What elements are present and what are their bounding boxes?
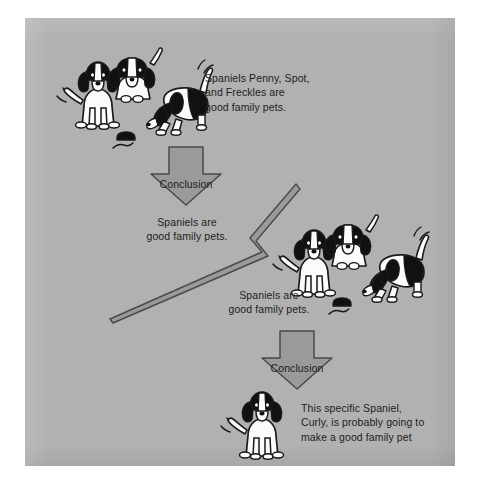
dog-group-top-icon [57, 48, 213, 148]
caption-conclusion-1: Spaniels are good family pets. [132, 215, 242, 244]
conclusion-arrow-1-label: Conclusion [145, 178, 227, 190]
caption-premise-1: Spaniels Penny, Spot, and Freckles are g… [205, 71, 355, 114]
figure-container: Conclusion Conclusion Spaniels Penny, Sp… [0, 0, 480, 493]
dog-single-bottom-icon [221, 392, 284, 459]
caption-conclusion-2: This specific Spaniel, Curly, is probabl… [301, 401, 466, 444]
conclusion-arrow-1 [151, 147, 221, 205]
conclusion-arrow-2 [262, 331, 332, 389]
caption-premise-2: Spaniels are good family pets. [214, 288, 324, 317]
conclusion-arrow-2-label: Conclusion [256, 362, 338, 374]
